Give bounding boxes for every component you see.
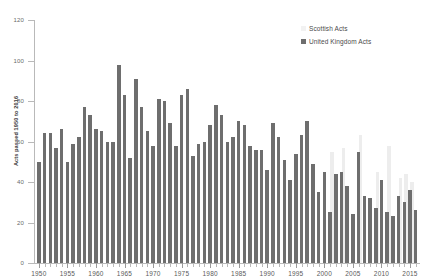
x-tick-label: 1990	[252, 270, 282, 277]
x-tick	[187, 263, 188, 267]
x-tick	[404, 263, 405, 267]
x-tick	[90, 263, 91, 267]
x-tick-label: 1985	[224, 270, 254, 277]
bar-uk-acts	[265, 170, 269, 263]
bar-uk-acts	[277, 137, 281, 263]
y-tick-label: 120	[2, 17, 24, 23]
x-tick-label: 1995	[281, 270, 311, 277]
bar-uk-acts	[363, 196, 367, 263]
bar-uk-acts	[243, 125, 247, 263]
bar-uk-acts	[334, 174, 338, 263]
bar-uk-acts	[305, 121, 309, 263]
x-tick	[256, 263, 257, 267]
x-tick	[73, 263, 74, 267]
x-tick	[410, 263, 411, 268]
bar-uk-acts	[385, 212, 389, 263]
x-tick	[216, 263, 217, 267]
x-tick	[416, 263, 417, 267]
x-tick	[376, 263, 377, 267]
x-tick	[387, 263, 388, 267]
bar-uk-acts	[226, 142, 230, 264]
x-tick	[182, 263, 183, 268]
x-tick	[250, 263, 251, 267]
bar-uk-acts	[260, 150, 264, 263]
x-tick	[164, 263, 165, 267]
x-tick-label: 2015	[395, 270, 425, 277]
bar-uk-acts	[231, 137, 235, 263]
x-tick	[307, 263, 308, 267]
bar-uk-acts	[157, 99, 161, 263]
bar-uk-acts	[60, 129, 64, 263]
x-tick	[102, 263, 103, 267]
bar-uk-acts	[117, 65, 121, 263]
y-tick-label: 80	[2, 98, 24, 104]
bar-uk-acts	[146, 131, 150, 263]
bar-uk-acts	[77, 137, 81, 263]
bar-uk-acts	[414, 210, 418, 263]
x-tick	[233, 263, 234, 267]
bar-uk-acts	[317, 192, 321, 263]
y-tick	[28, 263, 34, 264]
bar-uk-acts	[174, 146, 178, 263]
x-tick	[284, 263, 285, 267]
x-tick	[393, 263, 394, 267]
x-tick	[364, 263, 365, 267]
x-tick	[319, 263, 320, 267]
bar-uk-acts	[323, 172, 327, 263]
x-tick	[359, 263, 360, 267]
x-tick-label: 2005	[338, 270, 368, 277]
bar-uk-acts	[37, 162, 41, 263]
x-tick-label: 1960	[81, 270, 111, 277]
bar-uk-acts	[408, 190, 412, 263]
x-tick	[79, 263, 80, 267]
x-tick	[199, 263, 200, 267]
x-tick	[56, 263, 57, 267]
x-tick-label: 1975	[167, 270, 197, 277]
bar-uk-acts	[66, 162, 70, 263]
y-axis-title: Acts passed 1950 to 2016	[13, 66, 19, 196]
bar-uk-acts	[54, 148, 58, 263]
x-tick-label: 1970	[138, 270, 168, 277]
legend-item: Scottish Acts	[301, 22, 371, 35]
x-tick	[336, 263, 337, 267]
x-tick	[330, 263, 331, 267]
bar-chart: Acts passed 1950 to 2016 020406080100120…	[0, 0, 426, 280]
x-tick	[353, 263, 354, 268]
x-tick	[85, 263, 86, 267]
x-tick	[267, 263, 268, 268]
bar-uk-acts	[186, 89, 190, 263]
x-tick	[113, 263, 114, 267]
bar-uk-acts	[391, 216, 395, 263]
x-tick	[39, 263, 40, 268]
bar-uk-acts	[271, 123, 275, 263]
bar-uk-acts	[368, 198, 372, 263]
bar-uk-acts	[397, 196, 401, 263]
x-tick	[176, 263, 177, 267]
bar-uk-acts	[220, 115, 224, 263]
x-tick	[147, 263, 148, 267]
x-tick	[119, 263, 120, 267]
bar-uk-acts	[88, 115, 92, 263]
x-tick	[210, 263, 211, 268]
bar-uk-acts	[254, 150, 258, 263]
bar-uk-acts	[328, 212, 332, 263]
legend-label: United Kingdom Acts	[309, 38, 371, 45]
y-tick-label: 60	[2, 139, 24, 145]
chart-legend: Scottish ActsUnited Kingdom Acts	[301, 22, 371, 48]
bars-layer	[34, 20, 420, 263]
bar-uk-acts	[123, 95, 127, 263]
x-tick	[239, 263, 240, 268]
x-tick-label: 1955	[52, 270, 82, 277]
bar-uk-acts	[380, 180, 384, 263]
x-tick	[313, 263, 314, 267]
x-tick	[136, 263, 137, 267]
bar-uk-acts	[203, 142, 207, 264]
x-tick	[170, 263, 171, 267]
x-tick	[370, 263, 371, 267]
bar-uk-acts	[288, 180, 292, 263]
x-tick	[67, 263, 68, 268]
legend-item: United Kingdom Acts	[301, 35, 371, 48]
x-tick-label: 2000	[309, 270, 339, 277]
x-tick-label: 2010	[366, 270, 396, 277]
x-tick	[227, 263, 228, 267]
